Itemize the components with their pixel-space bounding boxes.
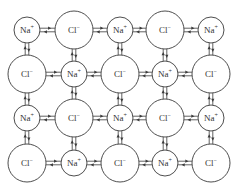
chloride-ion: Cl−	[146, 99, 184, 137]
horizontal-attraction-arrows	[184, 115, 198, 122]
horizontal-attraction-arrows	[139, 160, 152, 167]
horizontal-attraction-arrows	[46, 160, 61, 167]
horizontal-attraction-arrows	[133, 115, 146, 122]
horizontal-attraction-arrows	[46, 71, 61, 78]
vertical-attraction-arrows	[71, 49, 78, 61]
vertical-attraction-arrows	[162, 87, 169, 99]
horizontal-attraction-arrows	[184, 27, 198, 34]
ion-grid: Na+Cl−Na+Cl−Na+Cl−Na+Cl−Na+Cl−Na+Cl−Na+C…	[8, 11, 230, 182]
chloride-ion: Cl−	[146, 11, 184, 49]
chloride-ion: Cl−	[55, 11, 93, 49]
vertical-attraction-arrows	[162, 49, 169, 61]
horizontal-attraction-arrows	[40, 27, 55, 34]
horizontal-attraction-arrows	[133, 27, 146, 34]
sodium-ion: Na+	[14, 17, 40, 43]
vertical-attraction-arrows	[117, 43, 124, 55]
vertical-attraction-arrows	[117, 93, 124, 105]
vertical-attraction-arrows	[71, 87, 78, 99]
nacl-lattice-diagram: Na+Cl−Na+Cl−Na+Cl−Na+Cl−Na+Cl−Na+Cl−Na+C…	[0, 0, 242, 191]
horizontal-attraction-arrows	[40, 115, 55, 122]
chloride-ion: Cl−	[55, 99, 93, 137]
sodium-ion: Na+	[152, 150, 178, 176]
vertical-attraction-arrows	[208, 43, 215, 55]
sodium-ion: Na+	[61, 150, 87, 176]
horizontal-attraction-arrows	[178, 71, 192, 78]
vertical-attraction-arrows	[24, 43, 31, 55]
chloride-ion: Cl−	[8, 55, 46, 93]
sodium-ion: Na+	[61, 61, 87, 87]
vertical-attraction-arrows	[162, 137, 169, 150]
vertical-attraction-arrows	[24, 131, 31, 144]
chloride-ion: Cl−	[101, 144, 139, 182]
vertical-attraction-arrows	[24, 93, 31, 105]
vertical-attraction-arrows	[71, 137, 78, 150]
horizontal-attraction-arrows	[139, 71, 152, 78]
horizontal-attraction-arrows	[87, 71, 101, 78]
chloride-ion: Cl−	[8, 144, 46, 182]
sodium-ion: Na+	[107, 17, 133, 43]
chloride-ion: Cl−	[192, 144, 230, 182]
chloride-ion: Cl−	[192, 55, 230, 93]
vertical-attraction-arrows	[208, 131, 215, 144]
horizontal-attraction-arrows	[178, 160, 192, 167]
vertical-attraction-arrows	[117, 131, 124, 144]
sodium-ion: Na+	[198, 17, 224, 43]
chloride-ion: Cl−	[101, 55, 139, 93]
sodium-ion: Na+	[198, 105, 224, 131]
vertical-attraction-arrows	[208, 93, 215, 105]
horizontal-attraction-arrows	[93, 115, 107, 122]
sodium-ion: Na+	[152, 61, 178, 87]
horizontal-attraction-arrows	[93, 27, 107, 34]
horizontal-attraction-arrows	[87, 160, 101, 167]
sodium-ion: Na+	[107, 105, 133, 131]
sodium-ion: Na+	[14, 105, 40, 131]
